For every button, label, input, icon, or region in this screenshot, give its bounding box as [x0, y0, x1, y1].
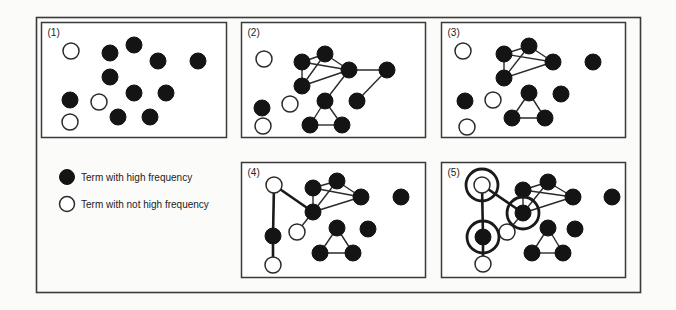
high-frequency-term-node: [62, 92, 78, 108]
panel-4: (4): [242, 163, 426, 278]
legend-item-high: Term with high frequency: [60, 170, 193, 185]
panel-3: (3): [442, 23, 626, 138]
low-frequency-term-node: [91, 94, 107, 110]
high-frequency-term-node: [457, 93, 473, 109]
high-frequency-term-node: [524, 245, 540, 261]
high-frequency-term-node: [555, 245, 571, 261]
high-frequency-term-node: [496, 46, 512, 62]
high-frequency-term-node: [150, 53, 166, 69]
high-frequency-term-node: [504, 110, 520, 126]
high-frequency-term-node: [305, 180, 321, 196]
high-frequency-term-node: [353, 189, 369, 205]
low-frequency-term-node: [265, 257, 281, 273]
high-frequency-term-node: [254, 100, 270, 116]
high-frequency-term-node: [294, 54, 310, 70]
high-frequency-term-node: [515, 205, 531, 221]
high-frequency-term-node: [158, 85, 174, 101]
high-frequency-term-node: [126, 37, 142, 53]
high-frequency-term-node: [334, 117, 350, 133]
high-frequency-term-node: [102, 69, 118, 85]
low-frequency-term-node: [475, 256, 491, 272]
low-frequency-term-node: [455, 43, 471, 59]
low-frequency-term-node: [459, 119, 475, 135]
panel-5: (5): [442, 163, 626, 278]
term-graph-figure: (1)(2)(3)(4)(5) Term with high frequency…: [0, 0, 676, 310]
high-frequency-term-node: [521, 38, 537, 54]
low-frequency-term-node: [266, 177, 282, 193]
legend-label-low: Term with not high frequency: [81, 199, 209, 210]
legend: Term with high frequency Term with not h…: [60, 170, 209, 212]
panel-label: (1): [48, 27, 60, 38]
high-frequency-term-node: [475, 229, 491, 245]
high-frequency-term-node: [545, 54, 561, 70]
high-frequency-term-node: [565, 189, 581, 205]
high-frequency-term-node: [329, 173, 345, 189]
high-frequency-term-node: [102, 45, 118, 61]
panel-label: (2): [248, 27, 260, 38]
high-frequency-term-node: [567, 221, 583, 237]
high-frequency-term-node: [496, 70, 512, 86]
panels: (1)(2)(3)(4)(5): [42, 23, 626, 278]
panel-label: (5): [448, 167, 460, 178]
high-frequency-term-node: [585, 54, 601, 70]
high-frequency-term-node: [302, 117, 318, 133]
high-frequency-term-node: [604, 189, 620, 205]
high-frequency-term-node: [540, 220, 556, 236]
high-frequency-term-node: [142, 109, 158, 125]
high-frequency-term-node: [294, 78, 310, 94]
high-frequency-term-node: [126, 85, 142, 101]
high-frequency-term-node: [317, 46, 333, 62]
panel-label: (4): [248, 167, 260, 178]
high-frequency-term-node: [393, 189, 409, 205]
high-frequency-term-node: [190, 53, 206, 69]
low-frequency-term-node: [62, 114, 78, 130]
low-frequency-term-node: [485, 92, 501, 108]
high-frequency-term-node: [110, 109, 126, 125]
panel-label: (3): [448, 27, 460, 38]
low-frequency-term-node: [256, 51, 272, 67]
legend-item-low: Term with not high frequency: [60, 197, 209, 212]
low-frequency-term-node: [282, 96, 298, 112]
high-frequency-term-node: [537, 110, 553, 126]
high-frequency-term-node: [345, 245, 361, 261]
legend-filled-circle-icon: [60, 170, 75, 185]
high-frequency-term-node: [341, 62, 357, 78]
high-frequency-term-node: [521, 85, 537, 101]
high-frequency-term-node: [360, 221, 376, 237]
high-frequency-term-node: [329, 220, 345, 236]
high-frequency-term-node: [265, 228, 281, 244]
high-frequency-term-node: [305, 204, 321, 220]
low-frequency-term-node: [289, 224, 305, 240]
panel-2: (2): [242, 23, 426, 138]
high-frequency-term-node: [349, 93, 365, 109]
low-frequency-term-node: [474, 177, 490, 193]
high-frequency-term-node: [312, 245, 328, 261]
legend-label-high: Term with high frequency: [81, 172, 192, 183]
high-frequency-term-node: [379, 62, 395, 78]
high-frequency-term-node: [317, 93, 333, 109]
low-frequency-term-node: [63, 43, 79, 59]
legend-open-circle-icon: [60, 197, 75, 212]
high-frequency-term-node: [553, 86, 569, 102]
panel-1: (1): [42, 23, 227, 138]
low-frequency-term-node: [255, 118, 271, 134]
high-frequency-term-node: [540, 174, 556, 190]
